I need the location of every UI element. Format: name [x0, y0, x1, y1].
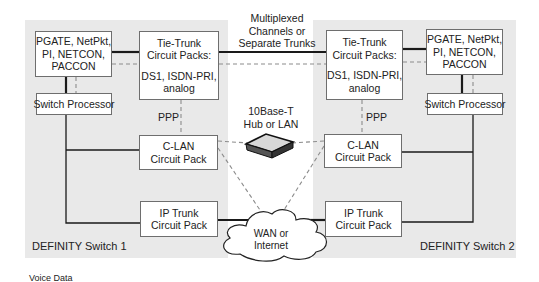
switch2-ppp-label: PPP: [366, 111, 387, 124]
switch1-pgate-box: PGATE, NetPkt, PI, NETCON, PACCON: [35, 31, 112, 77]
hub-label: 10Base-T Hub or LAN: [236, 105, 306, 130]
trunk-link-label: Multiplexed Channels or Separate Trunks: [236, 12, 318, 50]
switch1-label: DEFINITY Switch 1: [32, 240, 127, 253]
switch1-ppp-label: PPP: [158, 111, 179, 124]
switch1-ip-trunk-box: IP Trunk Circuit Pack: [140, 201, 218, 237]
switch1-tie-trunk-box: Tie-Trunk Circuit Packs: DS1, ISDN-PRI, …: [139, 31, 219, 100]
switch2-label: DEFINITY Switch 2: [420, 240, 515, 253]
switch2-switch-processor-box: Switch Processor: [427, 93, 503, 115]
switch2-ip-trunk-box: IP Trunk Circuit Pack: [325, 201, 402, 237]
switch2-tie-trunk-box: Tie-Trunk Circuit Packs: DS1, ISDN-PRI, …: [326, 30, 403, 100]
switch1-switch-processor-box: Switch Processor: [36, 93, 112, 115]
hub-icon: [246, 134, 293, 158]
wan-label: WAN or Internet: [246, 228, 296, 252]
legend-label: Voice Data: [29, 273, 73, 282]
switch2-clan-box: C-LAN Circuit Pack: [324, 134, 402, 168]
switch1-clan-box: C-LAN Circuit Pack: [139, 135, 218, 170]
switch2-pgate-box: PGATE, NetPkt, PI, NETCON, PACCON: [426, 29, 503, 75]
